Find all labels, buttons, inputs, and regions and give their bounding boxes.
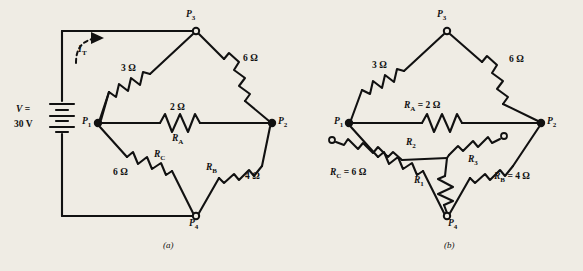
node-label-p4-b: P4 — [448, 219, 457, 231]
resistor-3ohm-zigzag-b — [362, 69, 404, 94]
wire-p1-rbl — [100, 127, 127, 157]
wye-r2-branch — [329, 137, 447, 160]
node-label-p3-b: P3 — [437, 10, 446, 22]
wire-p4-rbr-b — [450, 178, 470, 213]
resistor-3ohm-zigzag — [109, 72, 150, 97]
wire-p3-rtl — [150, 34, 193, 74]
wire-p3-rtl-b — [404, 34, 444, 71]
panel-caption-b: (b) — [444, 241, 455, 250]
wire-rbr-p2 — [262, 127, 270, 166]
panel-caption-a: (a) — [163, 241, 174, 250]
resistor-label-ra-b: RA = 2 Ω — [404, 101, 440, 113]
wire-p3-rtr-b — [450, 34, 482, 62]
wye-label-r3: R3 — [468, 155, 478, 167]
resistor-6ohm-top-zigzag-b — [482, 56, 508, 104]
source-label-line1: V = — [16, 105, 30, 115]
wire-rbl-p4 — [172, 171, 193, 213]
wye-label-r1: R1 — [414, 176, 424, 188]
resistor-rc-zigzag-b — [378, 152, 423, 175]
current-label-it: IT — [78, 44, 87, 57]
resistor-label-6ohm-top-a: 6 Ω — [243, 54, 258, 64]
source-label-line2: 30 V — [14, 120, 33, 130]
node-label-p4-a: P4 — [189, 219, 198, 231]
resistor-label-rc-a: RC — [154, 150, 165, 162]
panel-a-drawing — [0, 0, 292, 271]
node-p1-dot-b — [346, 120, 352, 126]
resistor-ra-zigzag-b — [422, 114, 462, 132]
resistor-label-4ohm-a: 4 Ω — [245, 172, 260, 182]
resistor-label-2ohm-a: 2 Ω — [170, 103, 185, 113]
node-p2-dot — [269, 120, 275, 126]
wire-p4-rbr — [199, 178, 219, 213]
node-label-p1-b: P1 — [334, 117, 343, 129]
node-p1-dot — [95, 120, 101, 126]
resistor-label-ra-a: RA — [172, 134, 183, 146]
resistor-label-rc-b: RC = 6 Ω — [330, 168, 366, 180]
node-p3-dot — [193, 28, 199, 34]
wire-rtl-p1b — [100, 92, 109, 119]
node-p2-dot-b — [538, 120, 544, 126]
wire-rtr-p2 — [245, 101, 269, 121]
wire-rbr-p2-b — [513, 127, 539, 166]
resistor-label-6ohm-bottom-a: 6 Ω — [113, 168, 128, 178]
battery-icon — [50, 104, 74, 132]
resistor-label-rb-b: RB = 4 Ω — [494, 172, 530, 184]
node-label-p1-a: P1 — [82, 117, 91, 129]
resistor-label-6ohm-top-b: 6 Ω — [509, 55, 524, 65]
panel-b-drawing — [292, 0, 583, 271]
node-label-p3-a: P3 — [186, 10, 195, 22]
node-label-p2-a: P2 — [278, 117, 287, 129]
circuit-figure: P3 P1 P2 P4 3 Ω 6 Ω 2 Ω RA 6 Ω RC RB 4 Ω… — [0, 0, 583, 271]
wye-terminal-left-dot — [329, 137, 335, 143]
wire-p3-rtr — [199, 34, 224, 59]
wire-rtr-p2-b — [503, 104, 538, 121]
wire-rtl-p1-b — [351, 90, 362, 120]
resistor-2ohm-zigzag — [160, 114, 200, 132]
node-p3-dot-b — [444, 28, 450, 34]
resistor-label-3ohm-a: 3 Ω — [121, 64, 136, 74]
wye-terminal-right-dot — [501, 133, 507, 139]
wire-r2-center — [402, 158, 447, 160]
wye-label-r2: R2 — [406, 138, 416, 150]
resistor-label-3ohm-b: 3 Ω — [372, 61, 387, 71]
node-label-p2-b: P2 — [547, 117, 556, 129]
resistor-label-rb-a: RB — [206, 163, 217, 175]
